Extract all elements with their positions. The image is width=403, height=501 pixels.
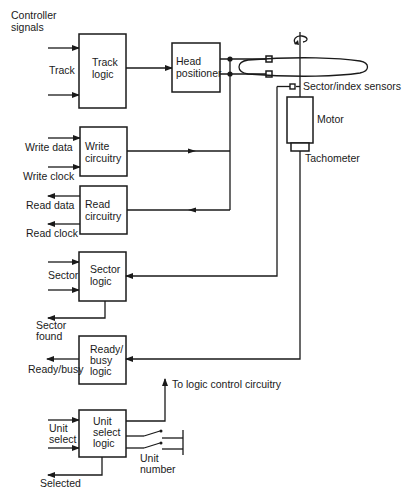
tachometer-box xyxy=(291,143,309,151)
sector-found-label-2: found xyxy=(36,330,62,342)
read-clock-label: Read clock xyxy=(26,227,79,239)
read-data-label: Read data xyxy=(26,199,75,211)
write-data-label: Write data xyxy=(25,141,73,153)
selected-output-arrow xyxy=(48,457,102,475)
sector-index-sensors-label: Sector/index sensors xyxy=(303,80,401,92)
track-signal-label: Track xyxy=(49,64,76,76)
unit-select-label-2: select xyxy=(49,433,77,445)
write-circuitry-block: Write data Write clock Write circuitry xyxy=(23,127,230,182)
sector-logic-label-1: Sector xyxy=(90,263,121,275)
header-line2: signals xyxy=(11,21,44,33)
tachometer-to-ready-line xyxy=(126,151,300,359)
head-positioner-label-2: positioner xyxy=(176,67,222,79)
head-positioner-block: Head positioner xyxy=(172,43,272,92)
unit-select-logic-label-3: logic xyxy=(93,437,115,449)
tachometer-label: Tachometer xyxy=(305,152,360,164)
track-logic-block: Track Track logic xyxy=(48,34,172,108)
switch-2-blade xyxy=(144,443,160,448)
sector-signal-label: Sector xyxy=(48,269,79,281)
read-circuitry-label-1: Read xyxy=(85,198,110,210)
header-line1: Controller xyxy=(11,9,57,21)
switch-1-contact xyxy=(160,430,163,433)
sector-logic-block: Sector Sector logic Sector found xyxy=(36,87,277,343)
sector-logic-label-2: logic xyxy=(90,275,112,287)
to-logic-control-label: To logic control circuitry xyxy=(172,378,282,390)
sector-found-arrow xyxy=(48,301,105,318)
write-clock-label: Write clock xyxy=(23,170,75,182)
head-positioner-label-1: Head xyxy=(176,55,201,67)
track-logic-label-2: logic xyxy=(92,68,114,80)
ready-busy-logic-block: Ready/ busy logic Ready/busy xyxy=(28,151,300,384)
motor-label: Motor xyxy=(317,113,344,125)
disk-drive-block-diagram: Controller signals Track Track logic Hea… xyxy=(0,0,403,501)
switch-2-contact xyxy=(160,442,163,445)
selected-label: Selected xyxy=(40,477,81,489)
ready-busy-label-3: logic xyxy=(90,365,112,377)
unit-select-logic-block: Unit select Unit select logic To logic c… xyxy=(40,378,282,489)
write-circuitry-label-1: Write xyxy=(85,140,109,152)
read-line-arrowhead xyxy=(188,208,196,213)
track-logic-label-1: Track xyxy=(92,56,119,68)
to-logic-control-arrow xyxy=(126,379,165,421)
motor-box xyxy=(287,97,313,143)
read-circuitry-label-2: circuitry xyxy=(85,210,122,222)
lower-head-icon xyxy=(266,71,272,77)
write-line-arrowhead xyxy=(188,149,196,154)
unit-number-label-2: number xyxy=(140,463,176,475)
ready-busy-signal-label: Ready/busy xyxy=(28,363,84,375)
write-circuitry-label-2: circuitry xyxy=(85,152,122,164)
sector-sensor-icon xyxy=(290,84,295,89)
sensor-to-sector-line xyxy=(126,87,277,277)
read-circuitry-block: Read data Read clock Read circuitry xyxy=(26,186,230,239)
switch-1-blade xyxy=(144,431,160,436)
